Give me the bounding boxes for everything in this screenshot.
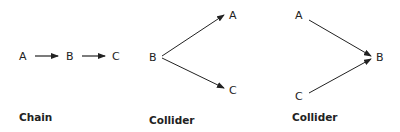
chain-node-b: B <box>66 50 74 63</box>
collider-diagram: A C B Collider <box>292 9 384 123</box>
fork-node-a: A <box>229 9 237 22</box>
fork-edge-b-c <box>162 58 224 88</box>
chain-node-c: C <box>112 50 120 63</box>
collider-edge-c-b <box>309 59 371 93</box>
collider-node-c: C <box>295 90 303 103</box>
fork-edge-b-a <box>162 15 224 56</box>
fork-node-c: C <box>229 84 237 97</box>
collider-node-b: B <box>376 51 384 64</box>
chain-title: Chain <box>19 111 52 123</box>
fork-node-b: B <box>149 51 157 64</box>
collider-edge-a-b <box>309 20 371 56</box>
collider-title: Collider <box>292 111 338 123</box>
causal-structures-diagram: A B C Chain B A C Collider A C B Collide… <box>0 0 400 132</box>
chain-node-a: A <box>19 50 27 63</box>
fork-title: Collider <box>149 114 195 126</box>
chain-diagram: A B C Chain <box>19 50 120 123</box>
collider-node-a: A <box>295 9 303 22</box>
fork-diagram: B A C Collider <box>149 9 237 126</box>
